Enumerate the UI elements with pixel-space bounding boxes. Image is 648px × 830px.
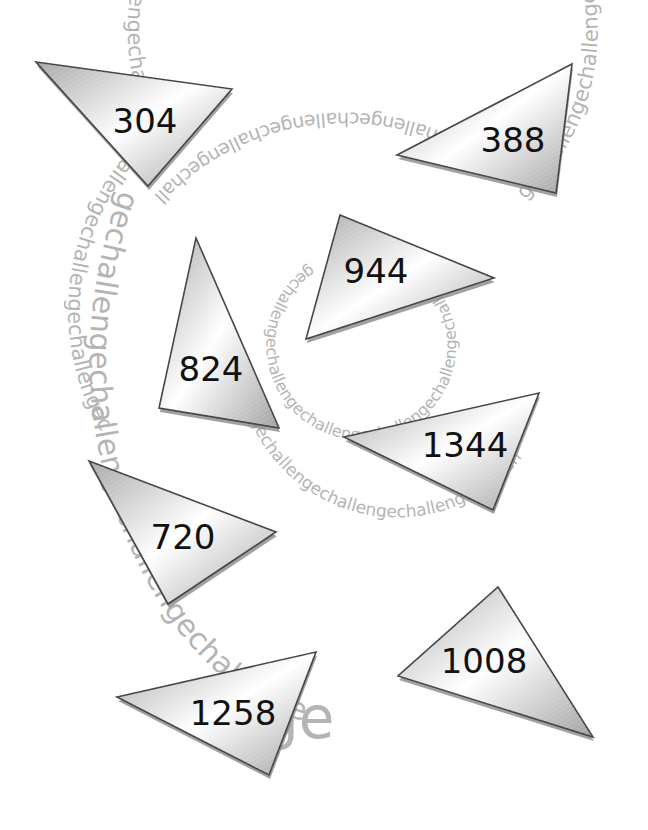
- triangle-number: 1344: [422, 425, 509, 465]
- triangle-texture: [159, 238, 279, 428]
- watermark-top-arc: gechallengechallengechallengechallengech…: [0, 0, 472, 208]
- triangle-number: 720: [151, 517, 216, 557]
- triangle-number: 944: [344, 251, 409, 291]
- triangle-card: 824: [159, 238, 280, 432]
- triangle-number: 1258: [190, 693, 277, 733]
- triangle-card: 1008: [398, 587, 594, 741]
- triangle-number: 824: [179, 349, 244, 389]
- triangle-number: 388: [481, 120, 546, 160]
- challenge-worksheet: gechallengechallengechallengechallengech…: [0, 0, 648, 830]
- triangle-card: 944: [306, 215, 495, 343]
- triangle-number: 1008: [441, 641, 528, 681]
- triangle-number: 304: [113, 101, 178, 141]
